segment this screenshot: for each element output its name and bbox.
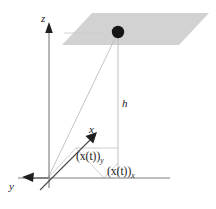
height-label: h bbox=[122, 98, 128, 109]
z-axis-arrowhead bbox=[45, 22, 53, 33]
projection-slant-segment bbox=[48, 148, 76, 178]
projection-x-base: (x(t)) bbox=[107, 165, 131, 177]
y-axis-arrowhead bbox=[22, 173, 34, 183]
moving-point bbox=[112, 26, 124, 38]
horizontal-plane bbox=[62, 13, 209, 45]
coordinate-diagram-figure: z x y h (x(t))y (x(t))x bbox=[0, 0, 216, 209]
projection-y-label: (x(t))y bbox=[76, 151, 104, 163]
x-axis-shaft bbox=[40, 138, 92, 190]
projection-x-label: (x(t))x bbox=[107, 166, 135, 178]
projection-y-subscript: y bbox=[100, 156, 103, 165]
x-axis-label: x bbox=[89, 124, 94, 135]
projection-x-subscript: x bbox=[131, 171, 134, 180]
projection-y-base: (x(t)) bbox=[76, 150, 100, 162]
figure-canvas bbox=[0, 0, 216, 209]
y-axis-label: y bbox=[9, 181, 14, 192]
z-axis-label: z bbox=[41, 13, 45, 24]
